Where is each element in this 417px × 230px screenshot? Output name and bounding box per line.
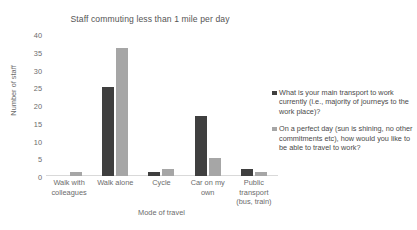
y-axis-tick-label: 20: [34, 102, 42, 111]
bar-group-bars: [138, 34, 184, 176]
y-axis-tick-label: 35: [34, 48, 42, 57]
bar-chart: Staff commuting less than 1 mile per day…: [0, 0, 417, 230]
bar-group-bars: [92, 34, 138, 176]
x-axis-tick-label: Walk alone: [92, 178, 138, 188]
x-axis-tick-label: Walk withcolleagues: [46, 178, 92, 197]
y-axis-tick-label: 5: [38, 155, 42, 164]
bar-group-bars: [46, 34, 92, 176]
y-axis-tick-label: 30: [34, 66, 42, 75]
bar-group: [231, 34, 277, 176]
bar[interactable]: [102, 87, 114, 176]
x-axis-tick-label-line: Walk alone: [92, 178, 138, 188]
bar[interactable]: [116, 48, 128, 176]
bar-group: [46, 34, 92, 176]
bar-group-bars: [185, 34, 231, 176]
bar[interactable]: [255, 172, 267, 176]
x-axis-tick-label: Cycle: [138, 178, 184, 188]
bar[interactable]: [70, 172, 82, 176]
x-axis-title: Mode of travel: [46, 208, 277, 217]
legend-swatch-dark-icon: [272, 91, 277, 96]
chart-title: Staff commuting less than 1 mile per day: [0, 14, 300, 24]
x-axis-tick-label-line: Car on my: [185, 178, 231, 188]
x-axis-tick-label-line: Public: [231, 178, 277, 188]
legend-label: What is your main transport to work curr…: [279, 88, 415, 116]
y-axis-tick-label: 10: [34, 137, 42, 146]
legend-entry[interactable]: On a perfect day (sun is shining, no oth…: [272, 124, 415, 152]
bar[interactable]: [148, 172, 160, 176]
legend-label: On a perfect day (sun is shining, no oth…: [279, 124, 415, 152]
x-axis-tick-label-line: own: [185, 188, 231, 198]
plot-area: [46, 34, 277, 176]
legend-entry[interactable]: What is your main transport to work curr…: [272, 88, 415, 116]
y-axis-tick-label: 15: [34, 119, 42, 128]
x-axis-tick-label-line: Cycle: [138, 178, 184, 188]
x-axis-tick-label: Publictransport(bus, train): [231, 178, 277, 207]
bar[interactable]: [195, 116, 207, 176]
y-axis-tick-label: 25: [34, 84, 42, 93]
legend-swatch-light-icon: [272, 127, 277, 132]
x-axis-tick-label-line: (bus, train): [231, 197, 277, 207]
y-axis-title: Number of staff: [9, 41, 18, 141]
x-axis-tick-label-line: colleagues: [46, 188, 92, 198]
bar[interactable]: [162, 169, 174, 176]
chart-legend: What is your main transport to work curr…: [272, 88, 415, 160]
y-axis-tick-label: 40: [34, 31, 42, 40]
bar[interactable]: [241, 169, 253, 176]
bar[interactable]: [209, 158, 221, 176]
x-axis-tick-label-line: Walk with: [46, 178, 92, 188]
x-axis-tick-label-line: transport: [231, 188, 277, 198]
bar-group: [92, 34, 138, 176]
bar-group-bars: [231, 34, 277, 176]
bar-group: [185, 34, 231, 176]
bar-group: [138, 34, 184, 176]
y-axis-tick-label: 0: [38, 173, 42, 182]
y-axis-ticks: 4035302520151050: [20, 34, 42, 176]
x-axis-tick-label: Car on myown: [185, 178, 231, 197]
